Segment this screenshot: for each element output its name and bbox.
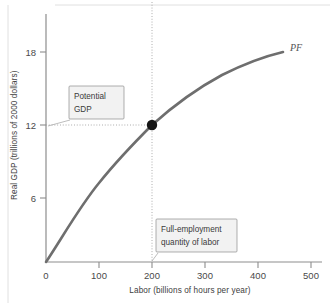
potential-gdp-callout-box [69, 86, 124, 119]
potential-gdp-callout-line-1: Potential [74, 92, 106, 101]
x-tick-label-300: 300 [197, 270, 213, 281]
pf-curve-label: PF [289, 42, 303, 53]
x-tick-label-200: 200 [144, 270, 160, 281]
full-employment-callout-line-1: Full-employment [161, 225, 222, 234]
x-tick-label-0: 0 [43, 270, 48, 281]
y-axis-label: Real GDP (trillions of 2000 dollars) [10, 70, 19, 200]
x-tick-label-500: 500 [303, 270, 319, 281]
potential-gdp-callout-line-2: GDP [74, 105, 92, 114]
x-tick-label-100: 100 [91, 270, 107, 281]
y-tick-label-12: 12 [25, 120, 36, 131]
full-employment-callout-line-2: quantity of labor [161, 238, 220, 247]
full-employment-callout: Full-employment quantity of labor [152, 219, 237, 261]
full-employment-callout-box [156, 219, 237, 252]
potential-gdp-leader-line [48, 120, 70, 126]
full-employment-leader-line [152, 253, 158, 261]
y-tick-label-6: 6 [31, 193, 36, 204]
full-employment-equilibrium-marker [147, 120, 157, 130]
x-axis-label: Labor (billions of hours per year) [129, 286, 250, 295]
x-axis-ticks [99, 262, 311, 268]
production-function-figure: Real GDP (trillions of 2000 dollars) 18 … [0, 0, 330, 303]
potential-gdp-callout: Potential GDP [48, 86, 124, 126]
y-axis-ticks [40, 52, 46, 198]
y-tick-label-18: 18 [25, 47, 36, 58]
chart-canvas: Real GDP (trillions of 2000 dollars) 18 … [0, 0, 330, 303]
x-tick-label-400: 400 [250, 270, 266, 281]
